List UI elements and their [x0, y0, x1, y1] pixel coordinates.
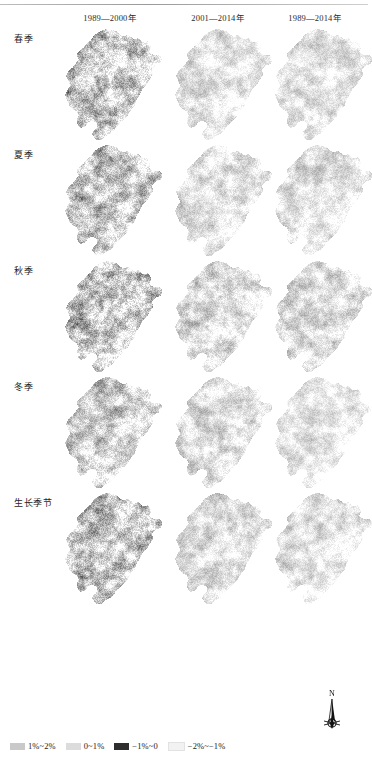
legend-swatch-icon: [10, 743, 25, 750]
map-panel: [268, 372, 372, 488]
map-grid-row: 冬季: [0, 372, 368, 488]
map-panel: [168, 372, 272, 488]
map-canvas: [168, 24, 272, 140]
column-header-period-2: 2001—2014年: [168, 11, 268, 23]
map-panel: [58, 256, 162, 372]
map-panel: [268, 488, 372, 604]
map-panel: [168, 256, 272, 372]
map-raster: [58, 256, 162, 372]
legend-swatch-icon: [114, 743, 129, 750]
map-canvas: [58, 488, 162, 604]
map-panel: [268, 256, 372, 372]
map-raster: [58, 488, 162, 604]
legend-label: 0~1%: [84, 741, 105, 751]
map-canvas: [168, 256, 272, 372]
map-canvas: [168, 140, 272, 256]
row-label-season-1: 春季: [14, 32, 33, 45]
legend-item: −2%~−1%: [168, 741, 226, 751]
legend-item: 0~1%: [66, 741, 105, 751]
map-panel: [168, 24, 272, 140]
top-divider: [0, 4, 368, 5]
map-canvas: [268, 488, 372, 604]
legend-item: −1%~0: [114, 741, 157, 751]
column-header-period-3: 1989—2014年: [265, 11, 365, 23]
map-canvas: [268, 140, 372, 256]
map-raster: [268, 372, 372, 488]
map-panel: [268, 24, 372, 140]
map-panel: [168, 488, 272, 604]
map-grid-row: 夏季: [0, 140, 368, 256]
map-raster: [168, 256, 272, 372]
legend-label: 1%~2%: [28, 741, 56, 751]
map-panel: [58, 488, 162, 604]
map-panel: [168, 140, 272, 256]
map-raster: [268, 256, 372, 372]
map-canvas: [168, 372, 272, 488]
map-raster: [58, 24, 162, 140]
row-label-season-2: 夏季: [14, 148, 33, 161]
row-label-season-3: 秋季: [14, 264, 33, 277]
map-canvas: [268, 372, 372, 488]
map-raster: [168, 24, 272, 140]
map-raster: [268, 488, 372, 604]
north-arrow-label: N: [319, 689, 345, 698]
north-arrow: N: [319, 689, 345, 733]
legend-item: 1%~2%: [10, 741, 56, 751]
map-raster: [168, 140, 272, 256]
legend-label: −2%~−1%: [188, 741, 226, 751]
column-header-row: 1989—2000年 2001—2014年 1989—2014年: [0, 11, 368, 25]
map-raster: [168, 488, 272, 604]
map-canvas: [58, 372, 162, 488]
map-canvas: [58, 256, 162, 372]
legend-swatch-icon: [168, 742, 185, 751]
map-canvas: [58, 24, 162, 140]
row-label-season-4: 冬季: [14, 380, 33, 393]
map-raster: [58, 140, 162, 256]
legend-swatch-icon: [66, 743, 81, 750]
map-canvas: [268, 256, 372, 372]
map-canvas: [58, 140, 162, 256]
legend-label: −1%~0: [132, 741, 157, 751]
column-header-period-1: 1989—2000年: [55, 11, 165, 23]
map-grid-row: 春季: [0, 24, 368, 140]
map-canvas: [168, 488, 272, 604]
map-panel: [58, 372, 162, 488]
map-grid-row: 生长季节: [0, 488, 368, 604]
map-raster: [168, 372, 272, 488]
row-label-season-5: 生长季节: [14, 496, 52, 509]
north-arrow-icon: [321, 698, 343, 730]
legend: 1%~2% 0~1% −1%~0 −2%~−1%: [10, 741, 235, 751]
map-panel: [268, 140, 372, 256]
map-canvas: [268, 24, 372, 140]
map-grid-row: 秋季: [0, 256, 368, 372]
map-grid: 春季 夏季 秋季 冬季 生长季节: [0, 24, 368, 604]
map-panel: [58, 24, 162, 140]
map-panel: [58, 140, 162, 256]
map-raster: [58, 372, 162, 488]
map-raster: [268, 24, 372, 140]
map-raster: [268, 140, 372, 256]
